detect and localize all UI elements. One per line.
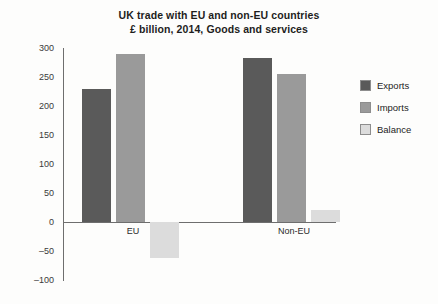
y-axis-tick-label: 100 <box>14 159 54 169</box>
y-axis-tick-label: –50 <box>14 246 54 256</box>
legend-swatch-icon-exports <box>360 80 371 91</box>
x-axis-category-label-eu: EU <box>78 226 188 237</box>
bar-noneu-exports <box>243 58 272 222</box>
legend: Exports Imports Balance <box>360 74 411 140</box>
y-axis-tick-label: 200 <box>14 101 54 111</box>
y-axis-tick-label: 0 <box>14 217 54 227</box>
legend-label-exports: Exports <box>377 80 409 91</box>
y-axis-tick-label: 300 <box>14 43 54 53</box>
y-axis-tick-label: –100 <box>14 275 54 285</box>
legend-swatch-icon-balance <box>360 124 371 135</box>
bar-chart: UK trade with EU and non-EU countries £ … <box>0 0 438 304</box>
bar-eu-imports <box>116 54 145 222</box>
y-axis-line <box>63 48 64 281</box>
x-axis-category-label-non-eu: Non-EU <box>239 226 349 237</box>
x-axis-zero-line <box>63 222 336 223</box>
y-axis-tick-label: 250 <box>14 72 54 82</box>
plot-area: 300 250 200 150 100 50 0 –50 –100 EU Non… <box>0 0 438 304</box>
y-axis-tick-label: 50 <box>14 188 54 198</box>
legend-item-imports: Imports <box>360 96 411 118</box>
y-axis-tick-label: 150 <box>14 130 54 140</box>
bar-noneu-imports <box>277 74 306 222</box>
legend-item-exports: Exports <box>360 74 411 96</box>
bar-eu-exports <box>82 89 111 222</box>
legend-label-imports: Imports <box>377 102 409 113</box>
bar-noneu-balance <box>311 210 340 222</box>
legend-swatch-icon-imports <box>360 102 371 113</box>
legend-label-balance: Balance <box>377 124 411 135</box>
legend-item-balance: Balance <box>360 118 411 140</box>
